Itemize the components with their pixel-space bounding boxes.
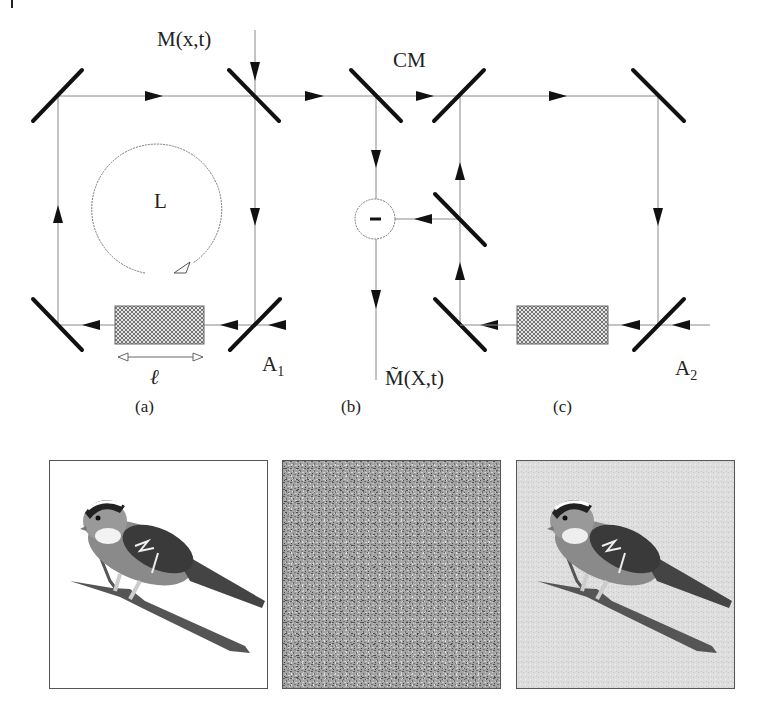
arrow-up-b2	[455, 262, 465, 280]
arrow-down-input	[250, 62, 260, 81]
gain-medium-c	[517, 306, 608, 344]
arrow-right-top-c	[549, 91, 567, 101]
noise-texture	[283, 461, 501, 689]
arrow-left-pump-a2	[672, 320, 690, 330]
caption-a: (a)	[135, 397, 154, 417]
amplifier-2-label: A2	[675, 356, 697, 384]
loop-arrowhead	[174, 262, 190, 273]
arrow-left-a2-in	[621, 320, 640, 330]
bird-illustration	[50, 461, 268, 689]
arrow-down-output	[371, 290, 381, 309]
arrow-left-bottom-a	[82, 320, 100, 330]
arrow-left-pump-a1	[268, 320, 286, 330]
arrow-down-b1	[371, 150, 381, 168]
arrow-right-top-b2	[416, 91, 434, 101]
output-signal-label: M̃(X,t)	[385, 366, 444, 391]
arrow-left-to-sub	[414, 214, 432, 224]
recovered-bird-image	[516, 460, 735, 689]
system-a	[58, 30, 375, 325]
length-indicator	[118, 353, 203, 361]
noise-image	[282, 460, 501, 689]
arrow-left-a1-in	[220, 320, 238, 330]
arrow-down-c	[653, 208, 663, 226]
loop-label: L	[154, 189, 167, 214]
arrows-c	[549, 91, 690, 330]
caption-c: (c)	[553, 397, 572, 417]
arrows-a	[53, 62, 286, 330]
amplifier-1-label: A1	[262, 352, 284, 380]
input-signal-label: M(x,t)	[157, 27, 211, 52]
system-c	[460, 96, 710, 325]
arrow-right-top-a	[145, 91, 163, 101]
original-bird-image	[49, 460, 268, 689]
caption-b: (b)	[341, 397, 361, 417]
length-label: ℓ	[150, 365, 159, 390]
arrows-b	[305, 91, 498, 330]
arrow-down-a1	[250, 208, 260, 226]
arrow-up-left	[53, 205, 63, 223]
arrow-up-b1	[455, 162, 465, 180]
coupling-mirror-label: CM	[393, 48, 426, 73]
recovered-bird-illustration	[517, 461, 735, 689]
arrow-right-top-b1	[305, 91, 324, 101]
gain-medium-a	[115, 306, 204, 344]
